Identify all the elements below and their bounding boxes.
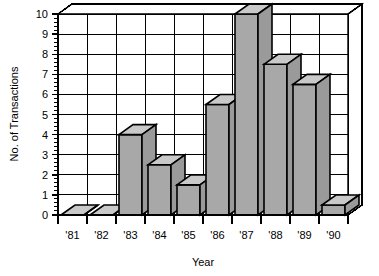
y-tick-label: 3: [42, 149, 48, 161]
x-axis-title: Year: [192, 256, 215, 268]
y-tick-label: 8: [42, 48, 48, 60]
y-tick-label: 7: [42, 68, 48, 80]
x-tick-label: '83: [123, 229, 137, 241]
x-tick-label: '85: [181, 229, 195, 241]
bar-1989: [293, 74, 330, 215]
y-tick-label: 6: [42, 88, 48, 100]
x-tick-label: '82: [94, 229, 108, 241]
y-tick-label: 9: [42, 28, 48, 40]
x-tick-label: '88: [268, 229, 282, 241]
x-tick-label: '89: [297, 229, 311, 241]
x-tick-label: '90: [326, 229, 340, 241]
y-tick-label: 2: [42, 169, 48, 181]
x-tick-label: '87: [239, 229, 253, 241]
x-tick-label: '84: [152, 229, 166, 241]
plot-depth-right: [348, 4, 362, 215]
y-axis-title: No. of Transactions: [8, 66, 20, 161]
x-axis-tick-labels: '81 '82 '83 '84 '85 '86 '87 '88 '89 '90: [65, 229, 340, 241]
plot-depth-top: [58, 4, 362, 14]
bar-chart-figure: 0 1 2 3 4 5 6 7 8 9 10 '8: [0, 0, 379, 276]
y-tick-label: 1: [42, 189, 48, 201]
x-tick-label: '81: [65, 229, 79, 241]
y-tick-label: 10: [36, 8, 48, 20]
y-axis-ticks: [52, 14, 58, 215]
y-tick-label: 5: [42, 109, 48, 121]
chart-svg: 0 1 2 3 4 5 6 7 8 9 10 '8: [0, 0, 379, 276]
x-tick-label: '86: [210, 229, 224, 241]
y-tick-label: 0: [42, 209, 48, 221]
y-axis-tick-labels: 0 1 2 3 4 5 6 7 8 9 10: [36, 8, 48, 221]
y-tick-label: 4: [42, 129, 48, 141]
x-axis-ticks: [58, 215, 348, 224]
